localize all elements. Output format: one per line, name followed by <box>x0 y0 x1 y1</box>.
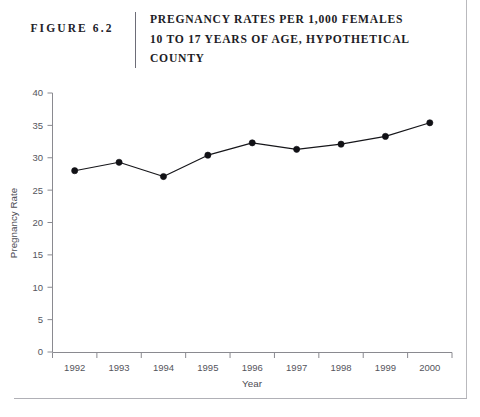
data-point-marker <box>382 133 388 139</box>
header-divider-rule <box>135 12 136 68</box>
data-point-marker <box>427 120 433 126</box>
y-tick-label: 20 <box>32 217 43 228</box>
x-axis-title: Year <box>242 378 263 389</box>
page-edge-rule-bottom <box>14 398 467 399</box>
y-tick-label: 15 <box>32 249 43 260</box>
x-tick-label: 1994 <box>153 362 174 373</box>
y-tick-label: 0 <box>38 346 43 357</box>
data-point-marker <box>116 159 122 165</box>
figure-title-line-2: 10 TO 17 YEARS OF AGE, HYPOTHETICAL <box>150 30 450 50</box>
figure-number-label: FIGURE 6.2 <box>18 22 126 34</box>
figure-title-line-3: COUNTY <box>150 49 450 69</box>
x-tick-label: 1997 <box>286 362 307 373</box>
data-point-marker <box>205 152 211 158</box>
chart-canvas: 0510152025303540 19921993199419951996199… <box>0 80 466 395</box>
y-axis-ticks: 0510152025303540 <box>32 87 52 357</box>
x-tick-label: 1996 <box>242 362 263 373</box>
y-tick-label: 40 <box>32 87 43 98</box>
x-tick-label: 1998 <box>330 362 351 373</box>
x-axis-ticks: 199219931994199519961997199819992000 <box>53 353 453 374</box>
x-tick-label: 1993 <box>109 362 130 373</box>
data-point-marker <box>160 173 166 179</box>
x-tick-label: 1995 <box>197 362 218 373</box>
line-chart: 0510152025303540 19921993199419951996199… <box>0 80 466 395</box>
pregnancy-rate-markers <box>72 120 433 180</box>
data-point-marker <box>338 141 344 147</box>
data-point-marker <box>72 168 78 174</box>
figure-title: PREGNANCY RATES PER 1,000 FEMALES 10 TO … <box>150 10 450 69</box>
x-tick-label: 2000 <box>419 362 440 373</box>
pregnancy-rate-line <box>75 123 430 177</box>
y-tick-label: 30 <box>32 152 43 163</box>
y-tick-label: 5 <box>38 314 43 325</box>
x-tick-label: 1999 <box>375 362 396 373</box>
y-axis-title: Pregnancy Rate <box>8 187 19 258</box>
data-point-marker <box>294 146 300 152</box>
data-point-marker <box>249 140 255 146</box>
figure-header: FIGURE 6.2 PREGNANCY RATES PER 1,000 FEM… <box>0 10 470 76</box>
x-tick-label: 1992 <box>64 362 85 373</box>
y-tick-label: 25 <box>32 185 43 196</box>
y-tick-label: 35 <box>32 120 43 131</box>
y-tick-label: 10 <box>32 282 43 293</box>
figure-title-line-1: PREGNANCY RATES PER 1,000 FEMALES <box>150 10 450 30</box>
